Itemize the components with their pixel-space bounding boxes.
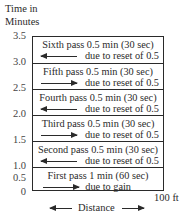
tick-1-5: 1.5 <box>4 134 26 145</box>
x-axis-end-label: 100 ft <box>154 191 179 204</box>
y-axis-label-line2: Minutes <box>5 15 39 28</box>
arrow-right-icon <box>41 135 77 136</box>
pass-note: due to reset of 0.5 <box>85 129 159 141</box>
arrow-right-icon <box>41 83 77 84</box>
arrow-right-icon <box>43 187 79 188</box>
distance-label: Distance <box>78 201 115 214</box>
pass-note: due to reset of 0.5 <box>85 77 159 89</box>
tick-3-0: 3.0 <box>4 56 26 67</box>
pass-note: due to reset of 0.5 <box>85 50 159 62</box>
pass-row-second: Second pass 0.5 min (30 sec) due to rese… <box>33 141 163 167</box>
pass-row-sixth: Sixth pass 0.5 min (30 sec) due to reset… <box>33 37 163 63</box>
passes-diagram-box: Sixth pass 0.5 min (30 sec) due to reset… <box>32 36 164 191</box>
tick-2-0: 2.0 <box>4 108 26 119</box>
tick-1-0: 1.0 <box>4 160 26 171</box>
tick-2-5: 2.5 <box>4 82 26 93</box>
pass-note: due to gain <box>85 181 131 193</box>
tick-0: 0 <box>4 186 26 197</box>
pass-row-first: First pass 1 min (60 sec) due to gain <box>33 167 163 191</box>
distance-axis: Distance <box>50 201 145 215</box>
pass-note: due to reset of 0.5 <box>85 103 159 115</box>
arrow-left-icon <box>41 56 77 57</box>
arrow-left-icon <box>41 161 77 162</box>
pass-note: due to reset of 0.5 <box>85 155 159 167</box>
tick-3-5: 3.5 <box>4 30 26 41</box>
tick-0-5: 0.5 <box>4 172 26 183</box>
pass-row-fifth: Fifth pass 0.5 min (30 sec) due to reset… <box>33 63 163 89</box>
arrow-left-icon <box>41 109 77 110</box>
pass-row-fourth: Fourth pass 0.5 min (30 sec) due to rese… <box>33 89 163 115</box>
arrow-left-icon <box>50 208 72 209</box>
pass-row-third: Third pass 0.5 min (30 sec) due to reset… <box>33 115 163 141</box>
arrow-right-icon <box>122 208 144 209</box>
y-axis-label-line1: Time in <box>5 2 38 15</box>
